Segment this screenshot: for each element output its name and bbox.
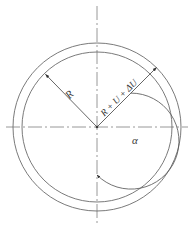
inner-radius-dimension: R bbox=[46, 74, 98, 127]
outer-radius-dimension: R + U + ΔU bbox=[97, 68, 157, 128]
technical-diagram-figure: R R + U + ΔU α bbox=[0, 0, 194, 230]
angle-label: α bbox=[132, 134, 138, 146]
diagram-canvas: R R + U + ΔU α bbox=[0, 0, 194, 230]
inner-radius-label: R bbox=[62, 87, 76, 101]
outer-radius-arrow bbox=[97, 68, 157, 128]
outer-radius-label: R + U + ΔU bbox=[98, 77, 140, 119]
axis-group bbox=[6, 6, 188, 224]
inner-radius-arrow bbox=[46, 74, 98, 127]
center-point bbox=[96, 126, 99, 129]
